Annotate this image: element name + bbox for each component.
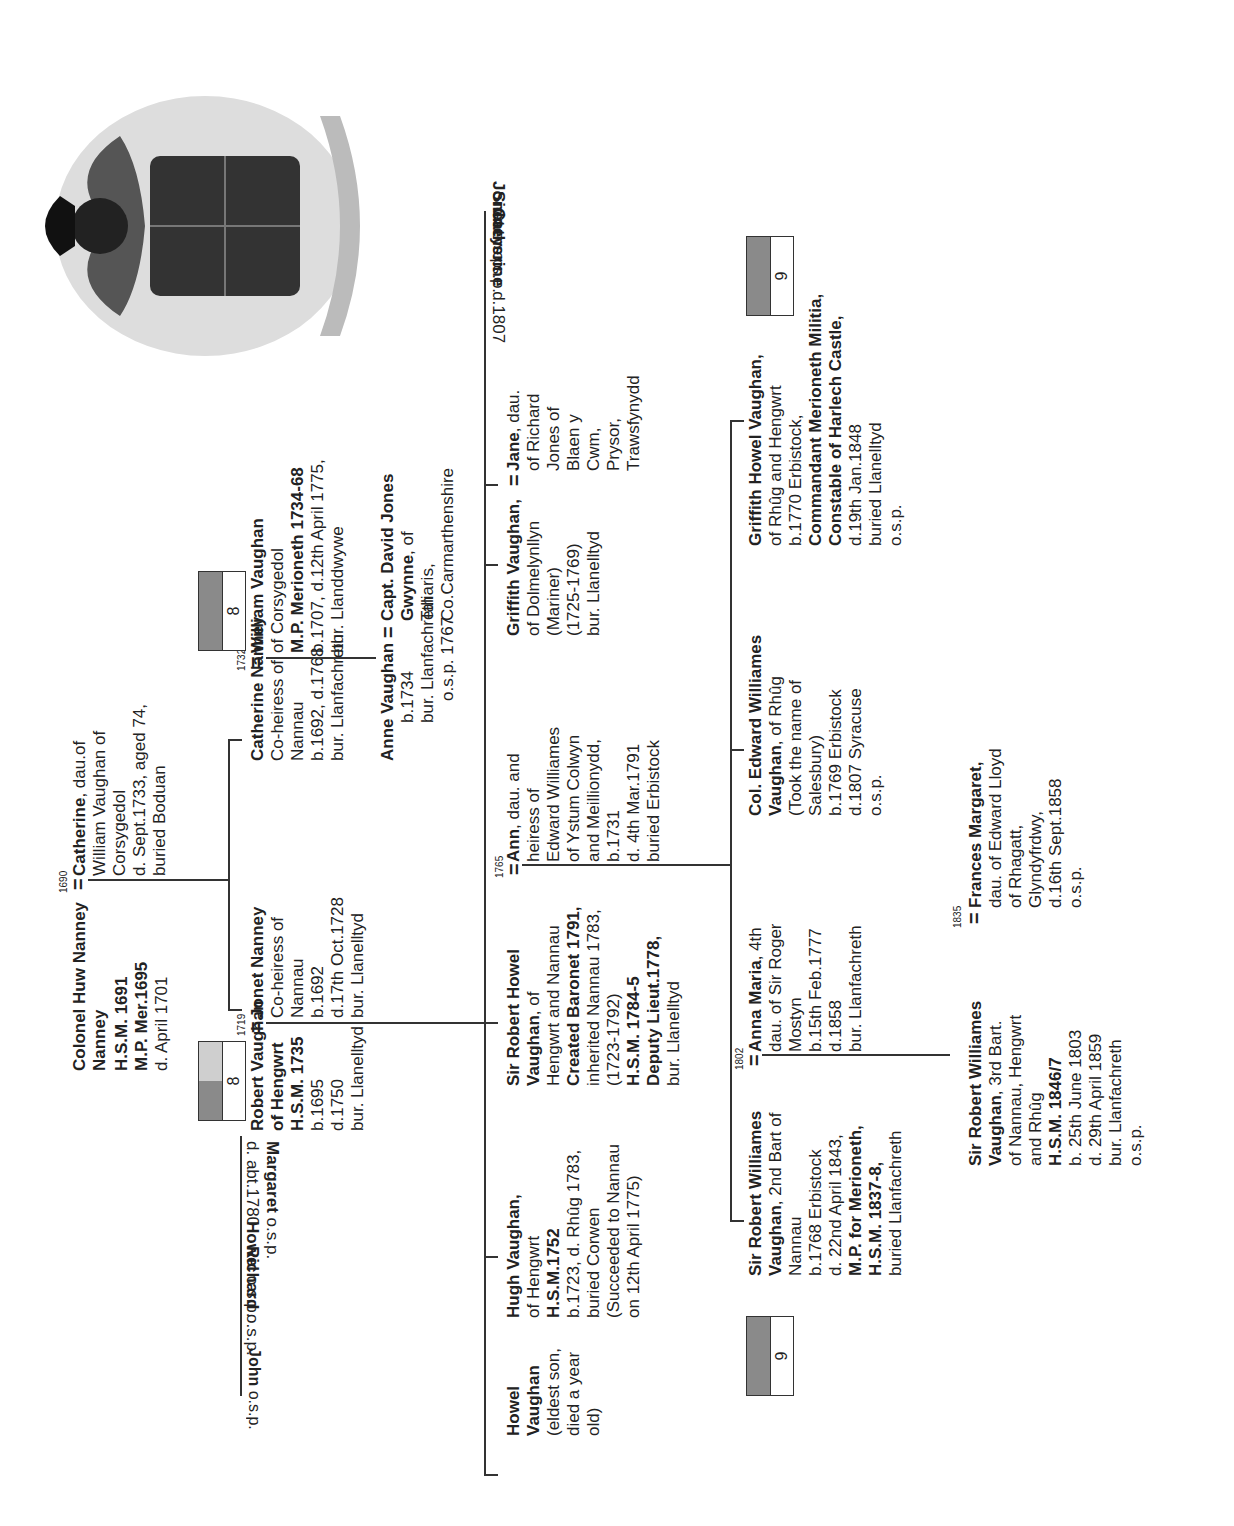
descent-line — [88, 879, 228, 881]
person-catherine-corsygedol: Catherine, dau.of William Vaughan of Cor… — [70, 704, 170, 876]
drop-line — [730, 749, 744, 751]
person-hugh-vaughan: Hugh Vaughan, of Hengwrt H.S.M.1752 b.17… — [504, 1144, 644, 1318]
person-william-vaughan-corsygedol: William Vaughan of Corsygedol M.P. Merio… — [248, 459, 348, 653]
marriage-symbol: = — [746, 1054, 762, 1066]
sibling-john: John o.s.p. — [244, 1348, 264, 1430]
person-jonet-nanney: Jonet Nanney Co-heiress of Nannau b.1692… — [248, 897, 368, 1018]
descent-line — [762, 1054, 950, 1056]
descent-line — [266, 1022, 484, 1024]
marriage-symbol: = — [506, 863, 522, 875]
drop-line — [484, 1474, 498, 1476]
generation-badge: 8 — [198, 1041, 246, 1121]
person-david-jones-gwynne: Capt. David Jones Gwynne, of Taliaris, C… — [378, 468, 458, 621]
person-col-edward-williames-vaughan: Col. Edward Williames Vaughan, of Rhûg (… — [746, 635, 886, 816]
drop-line — [484, 1022, 498, 1024]
marriage-year-1835: 1835 — [952, 906, 963, 928]
person-huw-nanney-titles: H.S.M. 1691 M.P. Mer.1695 d. April 1701 — [112, 962, 172, 1071]
coat-of-arms-icon — [40, 76, 370, 376]
drop-line — [484, 1256, 498, 1258]
family-tree-canvas: Colonel Huw Nanney Nanney H.S.M. 1691 M.… — [0, 0, 1234, 1526]
marriage-symbol: = — [506, 474, 522, 486]
sibling-jonet: Jonet o.s.p. — [488, 181, 508, 273]
marriage-symbol: = — [248, 1021, 264, 1033]
generation-badge: 9 — [746, 236, 794, 316]
person-sir-robert-howel-vaughan: Sir Robert Howel Vaughan, of Hengwrt and… — [504, 906, 684, 1086]
marriage-symbol: = — [248, 656, 264, 668]
marriage-symbol: = — [70, 878, 86, 890]
drop-line — [228, 1009, 242, 1011]
person-jane-jones: Jane, dau. of Richard Jones of Blaen y C… — [504, 375, 644, 471]
person-frances-margaret-lloyd: Frances Margaret, dau. of Edward Lloyd o… — [966, 748, 1086, 908]
descent-line — [522, 864, 730, 866]
person-anne-vaughan: Anne Vaughan b.1734 bur. Llanfachreth o.… — [378, 596, 458, 761]
sibling-bar — [730, 422, 732, 1222]
descent-line — [266, 657, 376, 659]
drop-line — [484, 484, 498, 486]
person-sir-robert-williames-vaughan-3rd-bart: Sir Robert Williames Vaughan, 3rd Bart. … — [966, 1001, 1146, 1166]
drop-line — [228, 739, 242, 741]
marriage-symbol: = — [380, 626, 396, 638]
marriage-symbol: = — [966, 912, 982, 924]
sibling-bar — [484, 486, 486, 1476]
person-griffith-vaughan: Griffith Vaughan, of Dolmelynllyn (Marin… — [504, 499, 604, 636]
person-howel-vaughan: Howel Vaughan (eldest son, died a year o… — [504, 1348, 604, 1436]
person-ann-williames: Ann, dau. and heiress of Edward Williame… — [504, 727, 664, 862]
drop-line — [484, 564, 498, 566]
sibling-margaret: Margaret o.s.p. d. abt.1780 — [242, 1141, 282, 1259]
person-huw-nanney: Colonel Huw Nanney Nanney — [70, 902, 110, 1071]
generation-badge: 9 — [746, 1316, 794, 1396]
sibling-bar — [228, 741, 230, 1011]
sibling-bar — [484, 211, 486, 486]
person-sir-robert-williames-vaughan-2nd-bart: Sir Robert Williames Vaughan, 2nd Bart o… — [746, 1111, 906, 1276]
person-anna-maria-mostyn: Anna Maria, 4th dau. of Sir Roger Mostyn… — [746, 923, 866, 1052]
person-robert-vaughan-hengwrt: Robert Vaughan of Hengwrt H.S.M. 1735 b.… — [248, 1001, 368, 1131]
person-griffith-howel-vaughan: Griffith Howel Vaughan, of Rhûg and Heng… — [746, 294, 906, 546]
generation-badge: 8 — [198, 571, 246, 651]
drop-line — [730, 1220, 744, 1222]
drop-line — [730, 420, 744, 422]
